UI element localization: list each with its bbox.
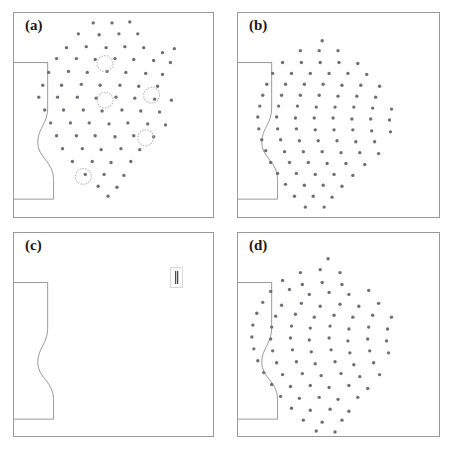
particle-dot [284, 83, 287, 86]
particle-dot [358, 151, 361, 154]
panel-a-plot [14, 13, 213, 217]
particle-dot [81, 147, 84, 150]
particle-dot [60, 84, 63, 87]
particle-dot [293, 195, 296, 198]
particle-dot [340, 283, 343, 286]
particle-dot [77, 32, 80, 35]
particle-dot [314, 362, 317, 365]
particle-dot [372, 361, 375, 364]
particle-dot [327, 72, 330, 75]
particle-dot [337, 61, 340, 64]
particle-dot [251, 323, 254, 326]
particle-dot [320, 281, 323, 284]
defect-circles [75, 56, 159, 185]
particle-dot [304, 205, 307, 208]
particle-dot [320, 150, 323, 153]
particle-dot [388, 118, 391, 121]
particle-dot [340, 418, 343, 421]
particle-dot [288, 161, 291, 164]
particle-dot [270, 325, 273, 328]
particle-dot [389, 130, 392, 133]
particle-dot [132, 134, 135, 137]
particle-dot [279, 395, 282, 398]
particle-dot [309, 72, 312, 75]
particle-dot [255, 312, 258, 315]
particle-dot [358, 375, 361, 378]
particle-dot [161, 51, 164, 54]
particle-dot [258, 104, 261, 107]
particle-dot [256, 115, 259, 118]
particle-dot [279, 138, 282, 141]
particle-dot [100, 109, 103, 112]
particle-dot [71, 160, 74, 163]
particle-dot [367, 289, 370, 292]
particle-dot [320, 39, 323, 42]
defect-circle [97, 92, 113, 108]
particle-dot [390, 107, 393, 110]
particle-dot [94, 134, 97, 137]
particle-dot [313, 116, 316, 119]
particle-dot [275, 361, 278, 364]
particle-dot [136, 32, 139, 35]
particle-dot [318, 305, 321, 308]
particle-dot [94, 58, 97, 61]
particle-dot [317, 139, 320, 142]
particle-dot [302, 418, 305, 421]
particle-dot [320, 420, 323, 423]
particle-dot [332, 314, 335, 317]
particle-dot [271, 72, 274, 75]
particle-dot [346, 339, 349, 342]
particle-dot [55, 57, 58, 60]
particle-dot [276, 127, 279, 130]
particle-dot [302, 150, 305, 153]
particle-dot [169, 61, 172, 64]
particle-dot [326, 257, 329, 260]
particle-dot [284, 183, 287, 186]
particle-dot [88, 121, 91, 124]
particle-dot [92, 21, 95, 24]
particle-dot [387, 351, 390, 354]
particle-dot [61, 147, 64, 150]
particle-dot [378, 85, 381, 88]
particle-dot [371, 106, 374, 109]
particle-dot [308, 293, 311, 296]
particle-dot [318, 268, 321, 271]
particle-dot [332, 128, 335, 131]
panel-a: (a) [13, 12, 214, 218]
particle-dot [264, 149, 267, 152]
particle-dot [144, 72, 147, 75]
particle-dot [390, 315, 393, 318]
particle-dot [156, 85, 159, 88]
particle-dot [146, 122, 149, 125]
particle-dot [110, 21, 113, 24]
particle-dot [332, 173, 335, 176]
particle-dot [82, 108, 85, 111]
particle-dot [49, 121, 52, 124]
particle-dot [373, 140, 376, 143]
particle-dot [96, 185, 99, 188]
particle-dot [325, 162, 328, 165]
particle-dot [309, 384, 312, 387]
panel-d-plot [238, 233, 439, 436]
particle-dot [124, 71, 127, 74]
particle-dot [327, 291, 330, 294]
particle-dot [261, 301, 264, 304]
particle-dot [250, 335, 253, 338]
particle-dot [276, 172, 279, 175]
particle-dot [274, 314, 277, 317]
particle-dot [252, 347, 255, 350]
particle-dot [318, 94, 321, 97]
panel-c-plot [14, 233, 213, 436]
particle-dot [347, 293, 350, 296]
wall-boundary [238, 63, 278, 200]
particle-dot [158, 110, 161, 113]
particle-dot [99, 148, 102, 151]
particle-dot [336, 398, 339, 401]
particle-dot [295, 360, 298, 363]
particle-dot [86, 71, 89, 74]
particle-dot [269, 337, 272, 340]
particle-dot [290, 407, 293, 410]
particle-dot [142, 46, 145, 49]
particle-dot [368, 349, 371, 352]
particle-dots [37, 20, 176, 198]
